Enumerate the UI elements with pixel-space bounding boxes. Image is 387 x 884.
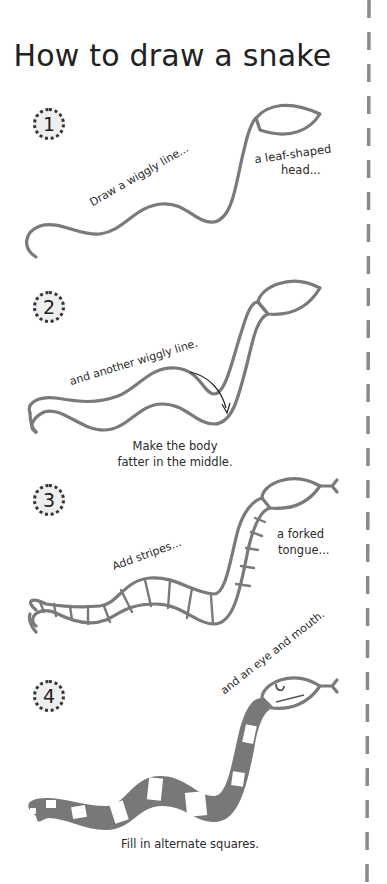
snake-step-4 bbox=[28, 678, 337, 830]
snake-2-head bbox=[258, 281, 320, 314]
snake-1-body bbox=[27, 118, 256, 257]
caption-forked: a forked bbox=[277, 526, 324, 542]
snake-4-eye-icon bbox=[276, 684, 284, 690]
step-3-badge: 3 bbox=[33, 484, 65, 516]
step-number: 3 bbox=[43, 489, 55, 511]
snake-2-neck bbox=[258, 302, 268, 314]
caption-fatter-middle: fatter in the middle. bbox=[100, 454, 250, 470]
snake-1-head bbox=[256, 105, 320, 134]
snake-4-head bbox=[262, 678, 320, 708]
step-number: 4 bbox=[43, 685, 55, 707]
snake-step-2 bbox=[29, 281, 320, 432]
step-4-badge: 4 bbox=[33, 680, 65, 712]
dashed-cut-line bbox=[367, 0, 369, 884]
caption-head: head... bbox=[281, 162, 321, 178]
snake-4-mouth bbox=[276, 695, 304, 702]
snake-3-tongue bbox=[320, 480, 337, 492]
step-1-badge: 1 bbox=[33, 108, 65, 140]
step-number: 2 bbox=[43, 296, 55, 318]
snake-3-body-bottom bbox=[33, 508, 270, 626]
snake-4-body-fill bbox=[28, 698, 272, 830]
snake-step-1 bbox=[27, 105, 320, 257]
snake-3-head bbox=[262, 479, 320, 508]
caption-make-body: Make the body bbox=[120, 438, 230, 454]
step-2-badge: 2 bbox=[33, 291, 65, 323]
caption-tongue: tongue... bbox=[278, 542, 329, 558]
caption-fill-alternate: Fill in alternate squares. bbox=[110, 836, 270, 852]
snake-4-tongue bbox=[320, 680, 337, 692]
step-number: 1 bbox=[43, 113, 55, 135]
